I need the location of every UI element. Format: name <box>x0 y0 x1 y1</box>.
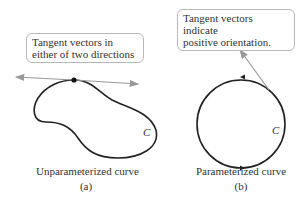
tangent-point <box>71 77 76 82</box>
callout-a: Tangent vectors in either of two directi… <box>26 33 144 63</box>
callout-b-line-1: Tangent vectors indicate <box>183 12 289 36</box>
unparameterized-curve <box>34 80 156 158</box>
caption-b: Parameterized curve <box>191 165 291 177</box>
curve-label-b: C <box>272 124 279 136</box>
callout-b-line-2: positive orientation. <box>183 36 289 48</box>
callout-a-line-1: Tangent vectors in <box>32 36 138 48</box>
curve-label-a: C <box>143 126 150 138</box>
orientation-arrow-top-icon <box>240 75 245 80</box>
caption-a: Unparameterized curve <box>36 165 136 177</box>
tangent-line-left <box>16 77 74 80</box>
sublabel-b: (b) <box>191 180 291 192</box>
sublabel-a: (a) <box>36 180 136 192</box>
tangent-vector <box>240 50 269 90</box>
callout-a-line-2: either of two directions <box>32 48 138 60</box>
callout-b: Tangent vectors indicate positive orient… <box>177 9 295 51</box>
